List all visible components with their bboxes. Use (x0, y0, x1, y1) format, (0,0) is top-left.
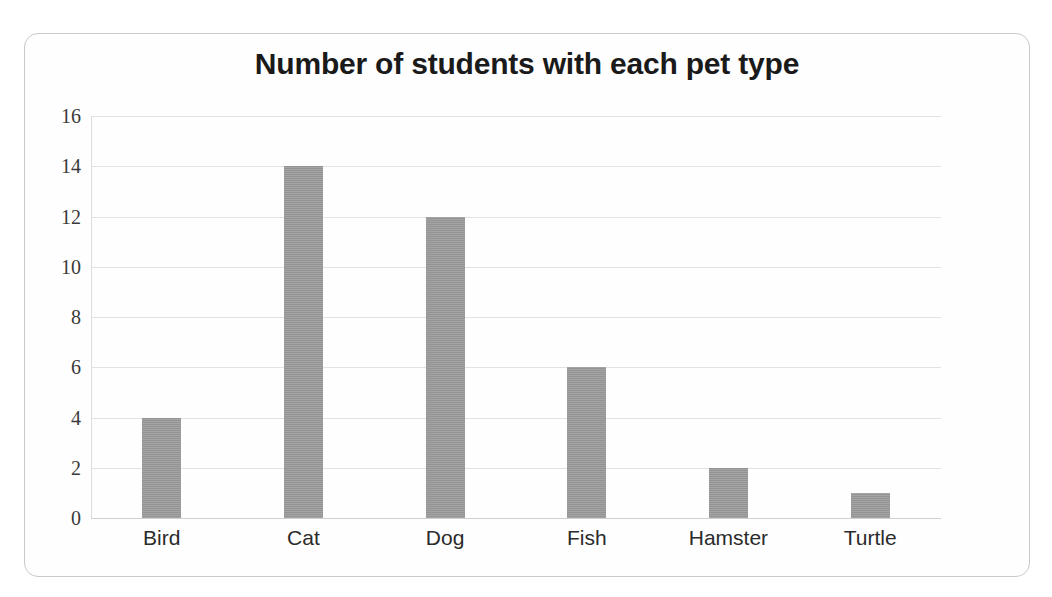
bar-slot (91, 116, 233, 518)
bar[interactable] (142, 418, 181, 519)
chart-title: Number of students with each pet type (25, 47, 1029, 81)
bar-slot (658, 116, 800, 518)
x-axis-tick-label: Dog (374, 526, 516, 550)
bar-slot (374, 116, 516, 518)
y-axis-tick-labels: 1614121086420 (25, 116, 81, 518)
y-axis-tick-label: 14 (61, 155, 81, 178)
bar[interactable] (851, 493, 890, 518)
y-axis-tick-label: 10 (61, 255, 81, 278)
bar-slot (516, 116, 658, 518)
x-axis-tick-label: Hamster (658, 526, 800, 550)
y-axis-tick-label: 4 (71, 406, 81, 429)
y-axis-tick-label: 8 (71, 306, 81, 329)
y-axis-tick-label: 16 (61, 105, 81, 128)
bar-slot (233, 116, 375, 518)
plot-area (91, 116, 941, 518)
y-axis-tick-label: 6 (71, 356, 81, 379)
bar[interactable] (567, 367, 606, 518)
gridline (91, 518, 941, 519)
bar[interactable] (426, 217, 465, 519)
chart-card: Number of students with each pet type 16… (24, 33, 1030, 577)
x-axis-tick-label: Fish (516, 526, 658, 550)
y-axis-tick-label: 12 (61, 205, 81, 228)
y-axis-tick-label: 2 (71, 456, 81, 479)
x-axis-tick-label: Cat (233, 526, 375, 550)
x-axis-tick-labels: BirdCatDogFishHamsterTurtle (91, 526, 941, 566)
bar[interactable] (709, 468, 748, 518)
x-axis-tick-label: Bird (91, 526, 233, 550)
y-axis-tick-label: 0 (71, 507, 81, 530)
bar[interactable] (284, 166, 323, 518)
bar-slot (799, 116, 941, 518)
x-axis-tick-label: Turtle (799, 526, 941, 550)
